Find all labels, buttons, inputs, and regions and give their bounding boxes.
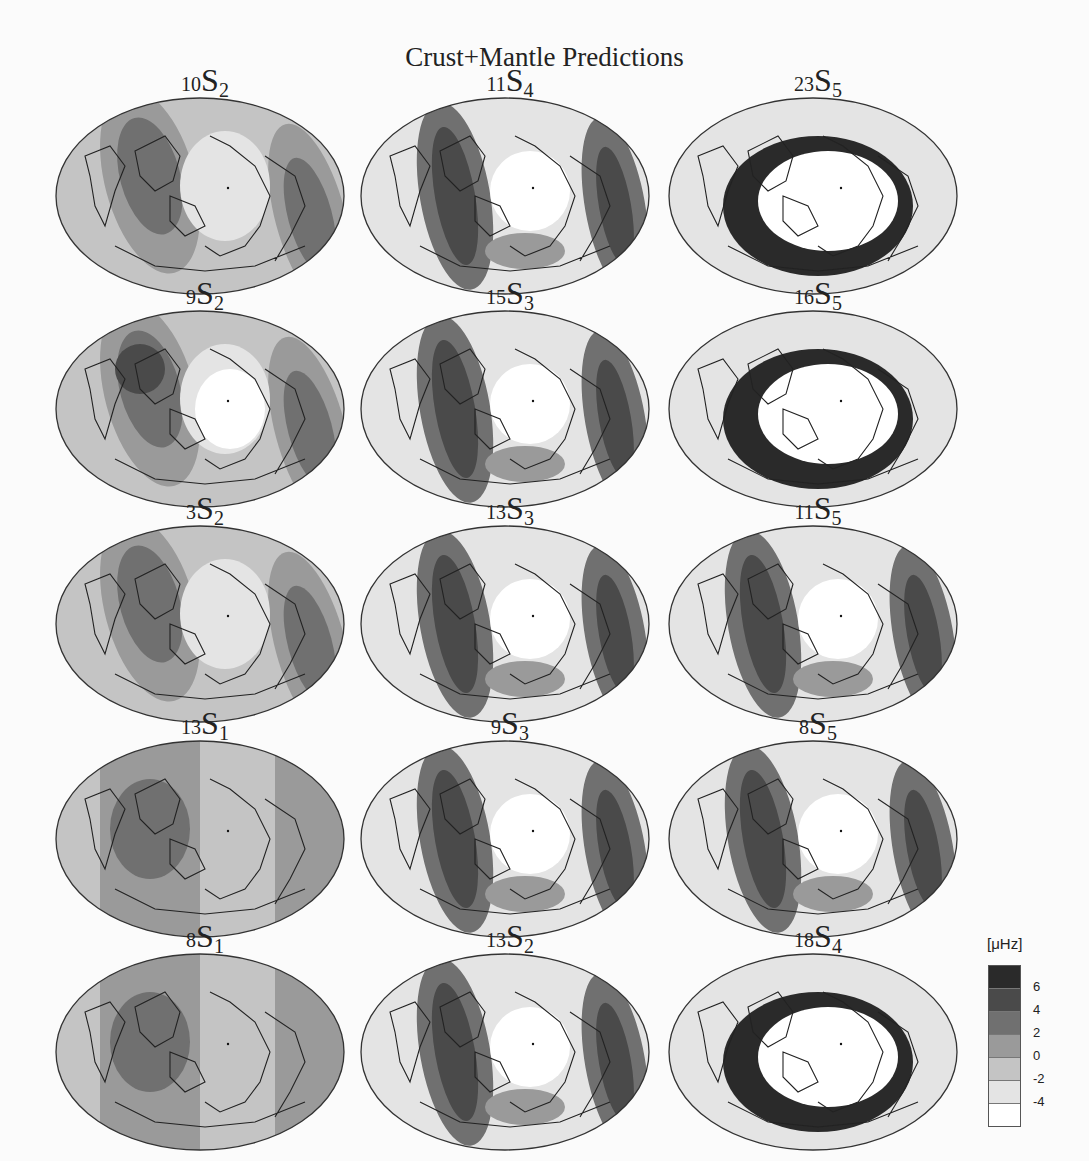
colorbar-swatch (989, 1058, 1020, 1081)
colorbar-tick: 2 (1033, 1025, 1040, 1040)
mode-letter: S (196, 490, 214, 526)
colorbar-tick: -4 (1033, 1094, 1045, 1109)
map-panel-13S1: 13S1 (55, 705, 355, 925)
global-map (668, 309, 958, 509)
global-map (668, 739, 958, 939)
mode-letter: S (814, 918, 832, 954)
mode-letter: S (814, 62, 832, 98)
map-panel-8S1: 8S1 (55, 918, 355, 1138)
overtone-number: 13 (181, 716, 201, 738)
colorbar-tick: 4 (1033, 1002, 1040, 1017)
global-map (668, 96, 958, 296)
colorbar-tick: 6 (1033, 979, 1040, 994)
overtone-number: 13 (486, 929, 506, 951)
mode-letter: S (196, 918, 214, 954)
overtone-number: 15 (486, 286, 506, 308)
mode-letter: S (196, 275, 214, 311)
mode-letter: S (501, 705, 519, 741)
overtone-number: 10 (181, 73, 201, 95)
colorbar-swatch (989, 1012, 1020, 1035)
colorbar-tick: -2 (1033, 1071, 1045, 1086)
map-panel-11S4: 11S4 (360, 62, 660, 282)
mode-letter: S (809, 705, 827, 741)
map-panel-11S5: 11S5 (668, 490, 968, 710)
overtone-number: 9 (186, 286, 196, 308)
colorbar-swatch (989, 966, 1020, 989)
overtone-number: 11 (794, 501, 813, 523)
map-panel-23S5: 23S5 (668, 62, 968, 282)
global-map (55, 524, 345, 724)
colorbar-swatch (989, 989, 1020, 1012)
global-map (360, 96, 650, 296)
global-map (55, 739, 345, 939)
overtone-number: 11 (486, 73, 505, 95)
global-map (360, 739, 650, 939)
map-panel-10S2: 10S2 (55, 62, 355, 282)
map-panel-3S2: 3S2 (55, 490, 355, 710)
global-map (55, 96, 345, 296)
mode-letter: S (506, 490, 524, 526)
colorbar-swatch (989, 1104, 1020, 1126)
mode-letter: S (506, 62, 524, 98)
overtone-number: 18 (794, 929, 814, 951)
mode-letter: S (814, 490, 832, 526)
colorbar-swatch (989, 1081, 1020, 1104)
colorbar-swatch (989, 1035, 1020, 1058)
mode-letter: S (201, 705, 219, 741)
overtone-number: 13 (486, 501, 506, 523)
mode-letter: S (814, 275, 832, 311)
overtone-number: 3 (186, 501, 196, 523)
mode-letter: S (506, 918, 524, 954)
global-map (360, 524, 650, 724)
map-panel-13S2: 13S2 (360, 918, 660, 1138)
global-map (360, 952, 650, 1152)
mode-letter: S (506, 275, 524, 311)
global-map (55, 952, 345, 1152)
colorbar-tick: 0 (1033, 1048, 1040, 1063)
colorbar-legend: [μHz] 6420-2-4 (985, 935, 1085, 952)
global-map (55, 309, 345, 509)
overtone-number: 16 (794, 286, 814, 308)
colorbar (988, 965, 1021, 1127)
map-panel-9S2: 9S2 (55, 275, 355, 495)
map-panel-18S4: 18S4 (668, 918, 968, 1138)
overtone-number: 9 (491, 716, 501, 738)
mode-letter: S (201, 62, 219, 98)
overtone-number: 8 (799, 716, 809, 738)
overtone-number: 23 (794, 73, 814, 95)
global-map (668, 524, 958, 724)
map-panel-13S3: 13S3 (360, 490, 660, 710)
map-panel-9S3: 9S3 (360, 705, 660, 925)
map-panel-16S5: 16S5 (668, 275, 968, 495)
map-panel-15S3: 15S3 (360, 275, 660, 495)
map-panel-8S5: 8S5 (668, 705, 968, 925)
global-map (360, 309, 650, 509)
overtone-number: 8 (186, 929, 196, 951)
global-map (668, 952, 958, 1152)
colorbar-unit: [μHz] (987, 935, 1085, 952)
